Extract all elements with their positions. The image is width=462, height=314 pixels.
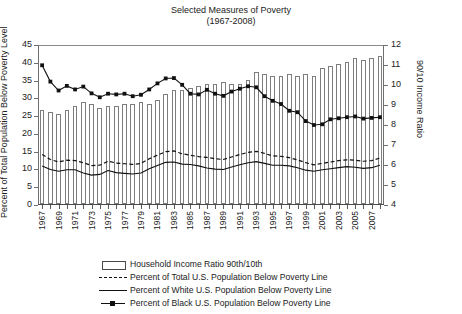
chart-title-main: Selected Measures of Poverty bbox=[0, 5, 462, 16]
y-tick-right bbox=[384, 45, 388, 46]
x-tick bbox=[42, 205, 43, 209]
x-tick-label: 2005 bbox=[351, 211, 359, 230]
x-tick-label: 2007 bbox=[368, 211, 376, 230]
series-marker bbox=[123, 92, 127, 96]
x-tick bbox=[314, 205, 315, 209]
legend-item-total-poverty: Percent of Total U.S. Population Below P… bbox=[99, 271, 332, 284]
y-tick-label-right: 12 bbox=[391, 40, 401, 49]
y-tick-label-left: 40 bbox=[22, 58, 32, 67]
x-tick-label: 1993 bbox=[252, 211, 260, 230]
series-marker bbox=[320, 122, 324, 126]
y-tick-label-right: 5 bbox=[391, 180, 396, 189]
x-tick-label: 1979 bbox=[137, 211, 145, 230]
x-tick-label: 1975 bbox=[104, 211, 112, 230]
y-tick-label-left: 45 bbox=[22, 40, 32, 49]
x-tick bbox=[174, 205, 175, 209]
series-marker bbox=[139, 93, 143, 97]
x-tick bbox=[215, 205, 216, 209]
legend-label: Household Income Ratio 90th/10th bbox=[130, 258, 262, 271]
series-marker bbox=[213, 92, 217, 96]
series-marker bbox=[345, 115, 349, 119]
x-tick bbox=[133, 205, 134, 209]
series-marker bbox=[147, 88, 151, 92]
solid-line-icon bbox=[99, 285, 127, 296]
series-marker bbox=[205, 88, 209, 92]
y-tick-right bbox=[384, 65, 388, 66]
series-line bbox=[42, 162, 380, 176]
x-tick bbox=[141, 205, 142, 209]
y-tick-left bbox=[34, 187, 38, 188]
x-tick bbox=[92, 205, 93, 209]
x-tick bbox=[125, 205, 126, 209]
series-marker bbox=[378, 115, 382, 119]
y-tick-left bbox=[34, 134, 38, 135]
series-marker bbox=[312, 123, 316, 127]
x-tick-label: 1995 bbox=[269, 211, 277, 230]
legend-label: Percent of Total U.S. Population Below P… bbox=[130, 271, 328, 284]
x-tick bbox=[322, 205, 323, 209]
chart-title: Selected Measures of Poverty (1967-2008) bbox=[0, 5, 462, 27]
x-tick-label: 1983 bbox=[170, 211, 178, 230]
x-tick bbox=[67, 205, 68, 209]
series-marker bbox=[57, 89, 61, 93]
x-tick bbox=[363, 205, 364, 209]
x-tick-label: 1981 bbox=[153, 211, 161, 230]
legend-label: Percent of Black U.S. Population Below P… bbox=[130, 297, 331, 310]
x-tick bbox=[298, 205, 299, 209]
x-tick-label: 1991 bbox=[236, 211, 244, 230]
y-tick-right bbox=[384, 125, 388, 126]
series-marker bbox=[156, 82, 160, 86]
y-axis-right-title: 90/10 Income Ratio bbox=[415, 60, 425, 180]
y-axis-left-title: Percent of Total Population Below Povert… bbox=[0, 28, 9, 218]
series-marker bbox=[353, 115, 357, 119]
y-tick-label-left: 5 bbox=[27, 182, 32, 191]
x-tick bbox=[149, 205, 150, 209]
x-tick-label: 1969 bbox=[55, 211, 63, 230]
series-marker bbox=[73, 88, 77, 92]
series-marker bbox=[48, 80, 52, 84]
series-marker bbox=[81, 85, 85, 89]
series-marker bbox=[172, 76, 176, 80]
series-marker bbox=[180, 83, 184, 87]
poverty-chart: Selected Measures of Poverty (1967-2008)… bbox=[0, 0, 462, 314]
series-marker bbox=[263, 94, 267, 98]
x-tick bbox=[380, 205, 381, 209]
x-tick bbox=[289, 205, 290, 209]
y-tick-label-left: 0 bbox=[27, 200, 32, 209]
x-tick-label: 1977 bbox=[121, 211, 129, 230]
x-tick bbox=[281, 205, 282, 209]
series-marker bbox=[304, 119, 308, 123]
series-marker bbox=[65, 84, 69, 88]
series-line bbox=[42, 151, 380, 166]
y-tick-label-right: 11 bbox=[391, 60, 400, 69]
series-marker bbox=[221, 94, 225, 98]
chart-legend: Household Income Ratio 90th/10th Percent… bbox=[99, 258, 332, 310]
lines-layer bbox=[38, 45, 384, 205]
y-tick-left bbox=[34, 205, 38, 206]
y-tick-label-left: 20 bbox=[22, 129, 32, 138]
y-tick-right bbox=[384, 105, 388, 106]
series-marker bbox=[131, 94, 135, 98]
x-tick-label: 2003 bbox=[335, 211, 343, 230]
y-tick-left bbox=[34, 81, 38, 82]
bar-swatch-icon bbox=[99, 259, 127, 270]
series-marker bbox=[106, 92, 110, 96]
x-tick bbox=[240, 205, 241, 209]
legend-item-white-poverty: Percent of White U.S. Population Below P… bbox=[99, 284, 332, 297]
x-tick-label: 1985 bbox=[186, 211, 194, 230]
x-tick bbox=[199, 205, 200, 209]
y-tick-label-left: 10 bbox=[22, 164, 32, 173]
y-tick-right bbox=[384, 85, 388, 86]
y-tick-label-right: 8 bbox=[391, 120, 396, 129]
x-tick bbox=[157, 205, 158, 209]
x-tick bbox=[100, 205, 101, 209]
x-tick bbox=[355, 205, 356, 209]
x-tick bbox=[182, 205, 183, 209]
series-marker bbox=[197, 93, 201, 97]
series-marker bbox=[164, 77, 168, 81]
x-tick bbox=[256, 205, 257, 209]
x-tick bbox=[166, 205, 167, 209]
x-tick bbox=[339, 205, 340, 209]
y-tick-label-left: 25 bbox=[22, 111, 32, 120]
series-marker bbox=[90, 91, 94, 95]
